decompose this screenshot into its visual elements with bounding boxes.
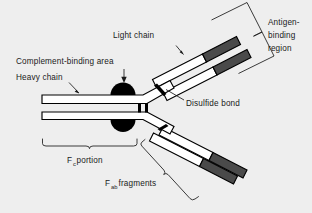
complement-binding-blob-bottom xyxy=(111,120,136,133)
fab-fragments-label-tail: fragments xyxy=(119,179,157,188)
heavy-chain-lower-bar xyxy=(42,112,174,134)
antigen-binding-region-label-line3: region xyxy=(268,44,292,53)
fc-portion-brace xyxy=(43,139,138,149)
hinge-disulfide-bar-right xyxy=(145,103,148,113)
disulfide-bond-label: Disulfide bond xyxy=(186,99,240,108)
fab-fragments-label: F ab fragments xyxy=(105,179,156,190)
complement-binding-arrowhead xyxy=(121,77,126,83)
antigen-binding-region-label-line2: binding xyxy=(268,31,296,40)
light-chain-label: Light chain xyxy=(113,31,155,40)
heavy-chain-label: Heavy chain xyxy=(16,73,63,82)
fc-portion-label-tail: portion xyxy=(77,156,103,165)
fab-fragments-label-subscript: ab xyxy=(111,184,117,190)
fc-portion-label-f: F xyxy=(67,156,72,165)
antigen-binding-region-label-line1: Antigen- xyxy=(268,18,300,27)
complement-binding-blob-top xyxy=(111,83,136,96)
complement-binding-area-label: Complement-binding area xyxy=(16,57,114,66)
heavy-chain-leader-arrowhead xyxy=(75,90,79,94)
antibody-structure-illustration: Light chain Complement-binding area Heav… xyxy=(0,0,312,213)
antibody-diagram: Light chain Complement-binding area Heav… xyxy=(0,0,312,213)
hinge-disulfide-bar-left xyxy=(138,103,141,113)
fab-fragments-label-f: F xyxy=(105,179,110,188)
fc-portion-label: F c portion xyxy=(67,156,103,167)
